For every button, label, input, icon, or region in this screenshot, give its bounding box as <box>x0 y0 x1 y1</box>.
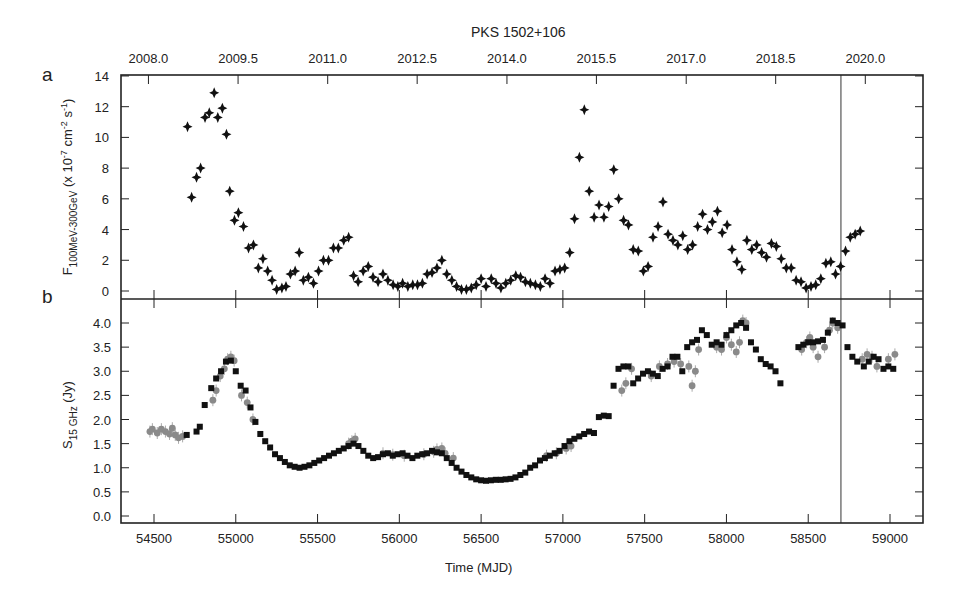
x-tick-label: 55000 <box>218 531 254 546</box>
y-tick-label: 1.5 <box>93 437 111 452</box>
data-point-star <box>648 232 658 243</box>
top-tick-label: 2017.0 <box>666 51 706 66</box>
data-point-circle <box>689 382 696 389</box>
data-point-star <box>796 276 806 287</box>
data-point-star <box>437 255 447 266</box>
data-point-square <box>257 431 263 437</box>
data-point-circle <box>728 341 735 348</box>
data-point-star <box>653 221 663 232</box>
y-tick-label: 14 <box>95 69 109 84</box>
y-tick-label: 0 <box>102 284 109 299</box>
x-axis-title: Time (MJD) <box>445 560 512 575</box>
data-point-circle <box>169 425 176 432</box>
x-tick-label: 58500 <box>790 531 826 546</box>
top-tick-label: 2011.0 <box>308 51 347 66</box>
data-point-star <box>609 164 619 175</box>
panel-label-a: a <box>42 64 53 86</box>
data-point-square <box>202 402 208 408</box>
data-point-star <box>717 227 727 238</box>
top-tick-label: 2008.0 <box>129 51 169 66</box>
data-point-square <box>184 432 190 438</box>
y-tick-label: 4.0 <box>93 316 111 331</box>
data-point-star <box>196 163 206 174</box>
data-point-star <box>737 264 747 275</box>
top-axis-years: 2008.02009.52011.02012.52014.02015.52017… <box>129 51 886 84</box>
data-point-star <box>776 253 786 264</box>
data-point-star <box>658 196 668 207</box>
y-tick-label: 3.5 <box>93 340 111 355</box>
top-tick-label: 2009.5 <box>218 51 258 66</box>
data-point-star <box>213 112 223 123</box>
x-tick-label: 56000 <box>381 531 417 546</box>
data-point-square <box>773 368 779 374</box>
data-point-circle <box>209 397 216 404</box>
data-point-square <box>208 385 214 391</box>
data-point-star <box>442 269 452 280</box>
data-point-star <box>267 275 277 286</box>
y-tick-label: 0.5 <box>93 485 111 500</box>
data-point-star <box>599 212 609 223</box>
x-tick-label: 54500 <box>136 531 172 546</box>
x-tick-label: 57500 <box>627 531 663 546</box>
data-point-square <box>665 363 671 369</box>
data-point-star <box>594 199 604 210</box>
data-point-star <box>476 273 486 284</box>
y-tick-label: 1.0 <box>93 461 111 476</box>
data-point-circle <box>622 380 629 387</box>
data-point-star <box>702 224 712 235</box>
data-point-star <box>333 242 343 253</box>
data-point-star <box>614 193 624 204</box>
data-point-star <box>604 201 614 212</box>
data-point-star <box>481 281 491 292</box>
data-point-star <box>727 244 737 255</box>
data-point-star <box>663 229 673 240</box>
data-point-star <box>308 278 318 289</box>
data-point-square <box>606 413 612 419</box>
data-point-star <box>209 87 219 98</box>
data-point-star <box>579 104 589 115</box>
y-tick-label: 8 <box>102 161 109 176</box>
data-point-circle <box>892 351 899 358</box>
y-tick-label: 3.0 <box>93 364 111 379</box>
y-axis-title-a: F100MeV-300GeV (x 10-7 cm-2 s-1) <box>59 99 79 276</box>
data-point-square <box>197 424 203 430</box>
data-point-star <box>263 266 273 277</box>
data-point-star <box>732 256 742 267</box>
data-point-star <box>693 221 703 232</box>
data-point-square <box>625 363 631 369</box>
data-point-square <box>890 366 896 372</box>
data-point-square <box>844 344 850 350</box>
x-tick-label: 59000 <box>872 531 908 546</box>
data-point-star <box>294 247 304 258</box>
data-point-square <box>233 368 239 374</box>
data-point-star <box>816 273 826 284</box>
y-tick-label: 2.0 <box>93 413 111 428</box>
data-point-star <box>221 129 231 140</box>
x-tick-label: 56500 <box>463 531 499 546</box>
data-point-star <box>574 152 584 163</box>
top-tick-label: 2014.0 <box>487 51 527 66</box>
data-point-star <box>584 186 594 197</box>
data-point-square <box>655 373 661 379</box>
data-point-star <box>826 256 836 267</box>
data-point-square <box>591 430 597 436</box>
data-point-square <box>228 358 234 364</box>
top-tick-label: 2012.5 <box>397 51 437 66</box>
data-point-circle <box>695 346 702 353</box>
data-point-square <box>704 332 710 338</box>
data-point-circle <box>885 356 892 363</box>
data-point-star <box>324 255 334 266</box>
data-point-square <box>213 375 219 381</box>
x-tick-label: 57000 <box>545 531 581 546</box>
data-point-star <box>183 121 193 132</box>
figure: 2008.02009.52011.02012.52014.02015.52017… <box>0 0 957 600</box>
y-tick-label: 0.0 <box>93 509 111 524</box>
data-point-square <box>840 322 846 328</box>
data-point-square <box>743 325 749 331</box>
data-point-star <box>253 262 263 273</box>
data-point-star <box>314 266 324 277</box>
data-point-circle <box>815 353 822 360</box>
data-point-circle <box>677 361 684 368</box>
top-tick-label: 2015.5 <box>577 51 617 66</box>
data-point-square <box>876 356 882 362</box>
